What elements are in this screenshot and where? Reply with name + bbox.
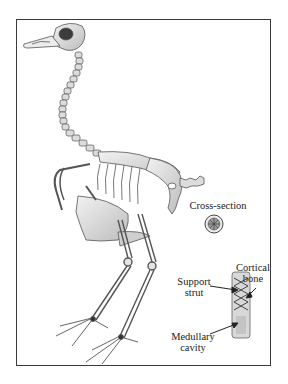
- label-medullary-line1: Medullary: [164, 331, 222, 342]
- label-cortical-line2: bone: [232, 273, 274, 284]
- label-support-line2: strut: [172, 287, 216, 298]
- torso: [55, 152, 204, 246]
- label-cortical-bone: Cortical bone: [232, 262, 274, 284]
- label-support-line1: Support: [172, 276, 216, 287]
- label-cross-section: Cross-section: [183, 200, 253, 211]
- cross-section-diagram: [205, 215, 223, 233]
- label-cortical-line1: Cortical: [232, 262, 274, 273]
- neck-vertebrae: [59, 52, 101, 156]
- skull: [24, 23, 86, 50]
- bird-skeleton-illustration: [0, 0, 288, 384]
- label-medullary-cavity: Medullary cavity: [164, 331, 222, 353]
- label-support-strut: Support strut: [172, 276, 216, 298]
- label-medullary-line2: cavity: [164, 342, 222, 353]
